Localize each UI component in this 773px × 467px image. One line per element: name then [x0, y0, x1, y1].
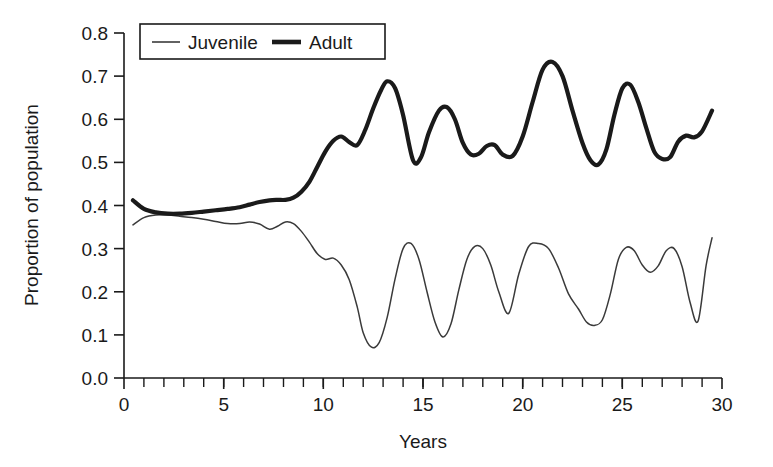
y-tick-label: 0.5: [82, 152, 108, 173]
legend-label-juvenile: Juvenile: [188, 32, 258, 53]
x-tick-label: 20: [512, 394, 533, 415]
x-tick-label: 0: [119, 394, 130, 415]
y-tick-label: 0.0: [82, 368, 108, 389]
x-tick-label: 10: [313, 394, 334, 415]
y-tick-label: 0.4: [82, 196, 109, 217]
x-tick-label: 5: [218, 394, 229, 415]
x-tick-label: 30: [711, 394, 732, 415]
y-tick-label: 0.7: [82, 66, 108, 87]
x-tick-label: 15: [412, 394, 433, 415]
legend-label-adult: Adult: [309, 32, 353, 53]
legend[interactable]: Juvenile Adult: [140, 24, 385, 59]
chart-background: [0, 0, 773, 467]
y-axis-tick-labels: 0.0 0.1 0.2 0.3 0.4 0.5 0.6 0.7 0.8: [82, 23, 109, 389]
y-tick-label: 0.6: [82, 109, 108, 130]
x-axis-title: Years: [399, 431, 447, 452]
x-tick-label: 25: [612, 394, 633, 415]
y-tick-label: 0.3: [82, 239, 108, 260]
y-tick-label: 0.1: [82, 325, 108, 346]
chart-page: 0.0 0.1 0.2 0.3 0.4 0.5 0.6 0.7 0.8: [0, 0, 773, 467]
y-axis-title: Proportion of population: [21, 104, 42, 306]
y-tick-label: 0.8: [82, 23, 108, 44]
line-chart: 0.0 0.1 0.2 0.3 0.4 0.5 0.6 0.7 0.8: [0, 0, 773, 467]
y-tick-label: 0.2: [82, 282, 108, 303]
